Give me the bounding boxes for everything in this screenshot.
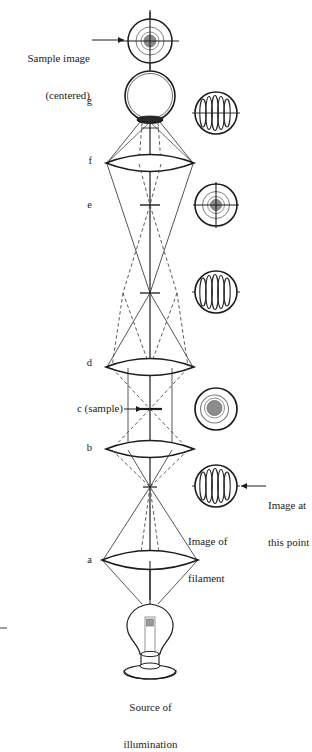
image-of-filament-line2: filament bbox=[188, 572, 254, 584]
source-label-line1: Source of bbox=[100, 701, 201, 713]
stage-label-a: a bbox=[78, 554, 92, 566]
image-at-this-point-line1: Image at bbox=[268, 499, 312, 511]
image-of-filament-label: Image of filament bbox=[188, 510, 254, 609]
filament-inset-bottom bbox=[192, 465, 240, 507]
stage-label-d: d bbox=[78, 357, 92, 369]
stage-label-c-sample: c (sample) bbox=[33, 402, 123, 414]
image-at-this-point-label: Image at this point bbox=[268, 474, 312, 573]
rays-a-to-lamp bbox=[103, 561, 197, 604]
sample-image-inset-e bbox=[193, 182, 239, 228]
lens-b bbox=[106, 441, 194, 458]
image-at-this-point-line2: this point bbox=[268, 536, 312, 548]
sample-image-label-line1: Sample image bbox=[8, 52, 90, 64]
sample-image-inset-top bbox=[121, 12, 179, 70]
eyepiece-g bbox=[125, 71, 175, 123]
source-of-illumination-label: Source of illumination bbox=[100, 676, 201, 752]
stage-label-e: e bbox=[78, 199, 92, 211]
sample-image-label: Sample image (centered) bbox=[8, 27, 90, 126]
sample-inset-c bbox=[195, 388, 237, 430]
filament-inset-mid bbox=[192, 271, 240, 313]
stage-label-b: b bbox=[78, 442, 92, 454]
image-of-filament-line1: Image of bbox=[188, 535, 254, 547]
lens-d bbox=[106, 359, 194, 376]
lens-f bbox=[106, 155, 194, 172]
filament-inset-g bbox=[192, 92, 240, 134]
stage-label-f: f bbox=[78, 155, 92, 167]
light-bulb bbox=[124, 604, 176, 679]
stage-label-g: g bbox=[78, 95, 92, 107]
source-label-line2: illumination bbox=[100, 738, 201, 750]
